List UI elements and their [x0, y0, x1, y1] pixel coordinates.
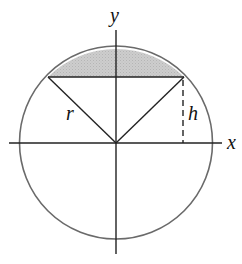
height-label: h — [188, 102, 198, 124]
x-axis-label: x — [226, 131, 236, 153]
radius-right — [116, 77, 184, 143]
y-axis-label: y — [108, 4, 119, 27]
radius-label: r — [66, 102, 74, 124]
radius-left — [48, 77, 116, 143]
circle-segment-diagram: y x r h — [0, 0, 242, 264]
